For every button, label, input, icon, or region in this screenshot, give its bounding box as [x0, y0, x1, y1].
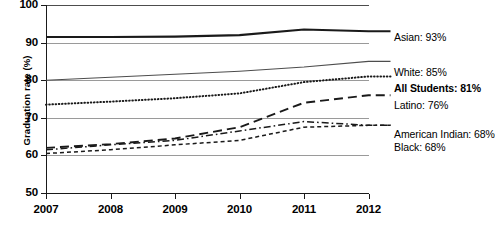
series-end-label-black: Black: 68% [394, 141, 446, 153]
series-line-all-students [46, 76, 391, 104]
series-end-label-white: White: 85% [394, 66, 447, 78]
series-end-label-american-indian: American Indian: 68% [394, 128, 495, 140]
series-line-black [46, 125, 391, 153]
series-line-asian [46, 29, 391, 37]
series-end-label-asian: Asian: 93% [394, 31, 446, 43]
series-line-white [46, 61, 391, 80]
series-end-label-all-students: All Students: 81% [394, 82, 481, 94]
series-end-label-latino: Latino: 76% [394, 99, 448, 111]
